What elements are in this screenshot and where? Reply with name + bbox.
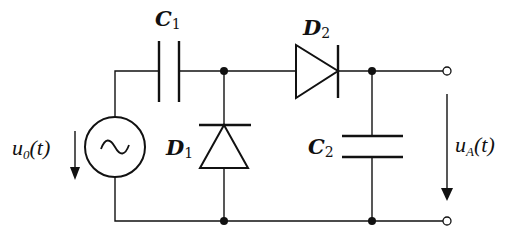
label-d2: D2	[303, 17, 330, 40]
ac-source	[85, 117, 145, 177]
capacitor-c2	[342, 136, 403, 157]
ua-arrow-icon	[441, 94, 453, 201]
circuit-schematic	[0, 0, 511, 239]
sine-wave-icon	[101, 140, 129, 153]
diode-d2	[296, 45, 338, 98]
circuit-diagram: C1 D2 D1 C2 u0(t) uA(t)	[0, 0, 511, 239]
label-c1-sub: 1	[172, 16, 181, 32]
label-u0-main: u	[12, 135, 23, 160]
label-ua-sub: A	[466, 144, 474, 159]
label-c2-main: C	[308, 134, 325, 159]
label-d1: D1	[166, 137, 193, 160]
wires	[115, 71, 443, 221]
label-u0-arg: (t)	[30, 135, 51, 160]
capacitor-c1	[159, 41, 179, 102]
label-d2-sub: 2	[321, 25, 330, 41]
label-d1-sub: 1	[184, 145, 193, 161]
label-ua-arg: (t)	[474, 132, 495, 157]
label-c1-main: C	[155, 6, 172, 31]
label-c2: C2	[308, 136, 334, 159]
diode-d1	[199, 125, 251, 168]
label-ua-main: u	[455, 132, 466, 157]
label-c2-sub: 2	[325, 144, 334, 160]
u0-arrow-icon	[70, 131, 80, 180]
label-d1-main: D	[166, 135, 184, 160]
label-d2-main: D	[303, 15, 321, 40]
label-u0: u0(t)	[12, 137, 50, 161]
junction-dots	[220, 67, 376, 225]
label-ua: uA(t)	[455, 134, 495, 158]
label-c1: C1	[155, 8, 181, 31]
